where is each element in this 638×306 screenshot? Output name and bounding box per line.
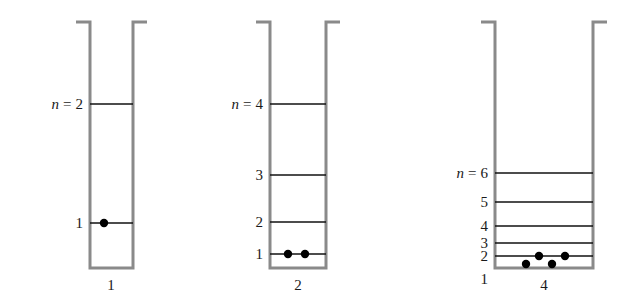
well-2-level-label-2: 2 (256, 214, 264, 230)
well-3-electron-n2-1 (535, 252, 543, 260)
wells-layer: 1n=21123n=4212345n=64 (52, 22, 607, 293)
well-1-level-label-1: 1 (76, 215, 84, 231)
well-1-level-2: n=2 (52, 96, 133, 112)
n-symbol: n (457, 165, 465, 181)
well-2: 123n=42 (232, 22, 340, 293)
level-number: 4 (256, 96, 264, 112)
well-3-width-label: 4 (540, 277, 548, 293)
well-2-level-label-4: n=4 (232, 96, 264, 112)
equals-symbol: = (63, 96, 71, 112)
well-3-electron-n1-2 (548, 260, 556, 268)
n-symbol: n (232, 96, 240, 112)
well-2-width-label: 2 (294, 277, 302, 293)
quantum-well-diagram: 1n=21123n=4212345n=64 (0, 0, 638, 306)
well-3-level-label-5: 5 (481, 194, 489, 210)
well-2-level-3: 3 (256, 167, 327, 183)
well-3-level-2: 2 (481, 248, 594, 264)
level-number: 6 (481, 165, 489, 181)
well-2-level-2: 2 (256, 214, 327, 230)
well-3-electron-n1-1 (522, 260, 530, 268)
level-number: 2 (76, 96, 84, 112)
well-3-level-6: n=6 (457, 165, 593, 181)
well-2-level-label-1: 1 (256, 246, 264, 262)
well-3-level-5: 5 (481, 194, 594, 210)
well-3-level-label-4: 4 (481, 218, 489, 234)
well-2-level-1: 1 (256, 246, 327, 262)
well-3-level-label-1: 1 (481, 271, 489, 287)
well-3-level-3: 3 (481, 235, 594, 251)
well-3-level-label-3: 3 (481, 235, 489, 251)
well-3-electron-n2-2 (561, 252, 569, 260)
well-2-level-4: n=4 (232, 96, 326, 112)
well-3-level-4: 4 (481, 218, 594, 234)
well-1: 1n=21 (52, 22, 147, 293)
n-symbol: n (52, 96, 60, 112)
well-1-level-label-2: n=2 (52, 96, 83, 112)
well-3-level-label-6: n=6 (457, 165, 489, 181)
well-1-width-label: 1 (107, 277, 115, 293)
well-2-level-label-3: 3 (256, 167, 264, 183)
well-2-electron-n1-2 (301, 250, 309, 258)
energy-level-diagram-figure: 1n=21123n=4212345n=64 (0, 0, 638, 306)
well-2-wall (256, 22, 340, 268)
well-1-electron-n1-1 (100, 219, 108, 227)
well-1-level-1: 1 (76, 215, 134, 231)
equals-symbol: = (468, 165, 476, 181)
well-2-electron-n1-1 (284, 250, 292, 258)
equals-symbol: = (243, 96, 251, 112)
well-1-wall (76, 22, 147, 268)
well-3-wall (481, 22, 607, 268)
well-3: 12345n=64 (457, 22, 607, 293)
